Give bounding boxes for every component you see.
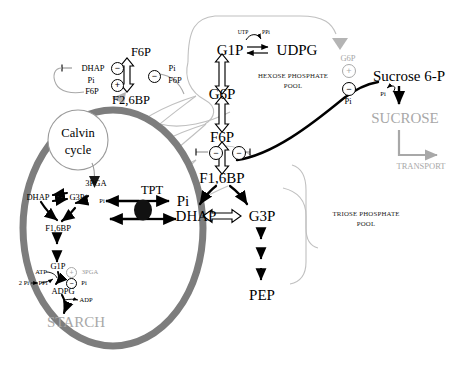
transporter-tpt: TPT xyxy=(141,184,163,197)
inhibition-symbol-fbpase-left: − xyxy=(209,146,223,160)
effector-pi-right: Pi xyxy=(168,64,175,73)
label-cycle: cycle xyxy=(65,144,91,157)
triose-pool-label-line2: POOL xyxy=(318,221,414,228)
byproduct-ppi-chloroplast: PPi xyxy=(38,280,47,287)
effector-pi-left: Pi xyxy=(87,76,94,85)
inhibition-symbol-fbpase-right: − xyxy=(232,146,246,160)
metabolite-sucrose: SUCROSE xyxy=(371,111,439,126)
pathway-diagram: F6P F2,6BP DHAP Pi F6P Pi F6P − + − G1P … xyxy=(0,0,465,366)
inhibition-symbol-pi-f6p: − xyxy=(148,70,161,83)
metabolite-g3p-cytosol: G3P xyxy=(249,209,276,224)
inhibition-symbol-sps-pi: − xyxy=(342,82,356,96)
hexose-pool-label-line2: POOL xyxy=(245,83,341,90)
byproduct-pi-release: Pi xyxy=(380,91,385,98)
metabolite-f6p-cytosol: F6P xyxy=(210,130,234,145)
hexose-pool-label-line1: HEXOSE PHOSPHATE xyxy=(245,73,341,80)
cofactor-utp: UTP xyxy=(238,30,249,36)
effector-f6p-right: F6P xyxy=(168,76,182,85)
metabolite-g6p-cytosol: G6P xyxy=(209,87,236,102)
label-calvin: Calvin xyxy=(61,127,94,140)
cofactor-ppi-cytosol: PPi xyxy=(262,30,270,36)
metabolite-pep: PEP xyxy=(249,288,275,303)
effector-g6p-sps: G6P xyxy=(340,54,355,63)
effector-pi-sps: Pi xyxy=(344,97,351,106)
effector-pi-agpase: Pi xyxy=(81,280,86,287)
cofactor-atp: ATP xyxy=(35,269,47,276)
effector-f6p-left: F6P xyxy=(85,87,99,96)
metabolite-sucrose-6p: Sucrose 6-P xyxy=(373,69,445,84)
metabolite-g1p-chloroplast: G1P xyxy=(50,262,65,271)
metabolite-g1p-cytosol: G1P xyxy=(217,43,244,58)
effector-dhap: DHAP xyxy=(81,64,104,73)
byproduct-2pi: 2 Pi xyxy=(19,280,29,287)
activation-symbol-agpase-3pga: + xyxy=(66,267,77,278)
metabolite-f16bp-cytosol: F1,6BP xyxy=(199,171,244,186)
activation-symbol-sps-g6p: + xyxy=(342,64,356,78)
triose-pool-label-line1: TRIOSE PHOSPHATE xyxy=(318,211,414,218)
metabolite-pi-cytosol: Pi xyxy=(177,194,190,209)
metabolite-pi-stroma: Pi xyxy=(99,198,104,205)
byproduct-adp: ADP xyxy=(79,297,92,304)
inhibition-symbol-dhap: − xyxy=(111,62,124,75)
metabolite-f26bp: F2,6BP xyxy=(112,94,150,107)
metabolite-3pga-chloroplast: 3PGA xyxy=(85,179,106,188)
metabolite-f6p-top: F6P xyxy=(131,46,151,59)
activation-symbol-pi-f6p: + xyxy=(111,79,124,92)
label-transport: TRANSPORT xyxy=(396,162,445,171)
inhibition-symbol-agpase-pi: − xyxy=(66,278,77,289)
metabolite-f16bp-chloroplast: F1,6BP xyxy=(45,224,71,233)
metabolite-dhap-chloroplast: DHAP xyxy=(26,193,49,202)
metabolite-g3p-chloroplast: G3P xyxy=(69,193,84,202)
effector-3pga-agpase: 3PGA xyxy=(82,269,98,276)
metabolite-udpg: UDPG xyxy=(277,43,318,58)
metabolite-starch: STARCH xyxy=(47,315,105,330)
